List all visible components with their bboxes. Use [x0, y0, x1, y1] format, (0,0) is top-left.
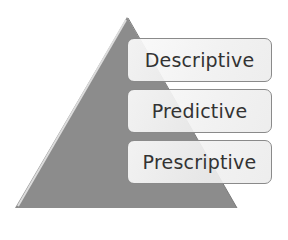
- level-descriptive: Descriptive: [127, 38, 272, 82]
- level-prescriptive: Prescriptive: [127, 140, 272, 184]
- level-label: Predictive: [152, 100, 248, 122]
- level-predictive: Predictive: [127, 89, 272, 133]
- level-label: Prescriptive: [143, 151, 257, 173]
- level-label: Descriptive: [145, 49, 255, 71]
